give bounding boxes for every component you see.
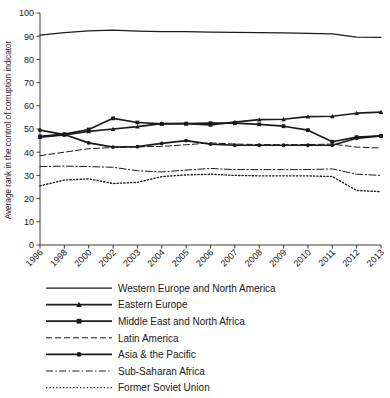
data-point-marker — [330, 140, 334, 144]
data-point-marker — [77, 352, 82, 357]
y-axis-tick-label: 100 — [19, 8, 34, 18]
data-point-marker — [257, 122, 261, 126]
y-axis-tick-label: 80 — [24, 55, 34, 65]
data-point-marker — [306, 128, 310, 132]
data-point-marker — [38, 135, 42, 139]
data-point-marker — [379, 134, 383, 138]
data-point-marker — [38, 128, 42, 132]
line-chart: Average rank in the control of corruptio… — [0, 0, 390, 398]
legend-item-label: Western Europe and North America — [118, 283, 276, 294]
legend-item-label: Eastern Europe — [118, 299, 188, 310]
y-axis-title: Average rank in the control of corruptio… — [4, 40, 13, 219]
y-axis-tick-label: 0 — [29, 240, 34, 250]
chart-container: Average rank in the control of corruptio… — [0, 0, 390, 398]
data-point-marker — [87, 141, 91, 145]
data-point-marker — [136, 121, 140, 125]
data-point-marker — [136, 145, 140, 149]
legend-item-label: Latin America — [118, 333, 179, 344]
data-point-marker — [184, 139, 188, 143]
y-axis-tick-label: 70 — [24, 78, 34, 88]
data-point-marker — [233, 121, 237, 125]
y-axis-tick-label: 20 — [24, 194, 34, 204]
data-point-marker — [111, 145, 115, 149]
data-point-marker — [62, 133, 66, 137]
data-point-marker — [355, 136, 359, 140]
data-point-marker — [282, 143, 286, 147]
data-point-marker — [282, 124, 286, 128]
data-point-marker — [209, 142, 213, 146]
data-point-marker — [209, 121, 213, 125]
y-axis-title-text: Average rank in the control of corruptio… — [4, 40, 13, 219]
y-axis-tick-label: 50 — [24, 124, 34, 134]
y-axis-tick-label: 40 — [24, 148, 34, 158]
legend-item-label: Former Soviet Union — [118, 382, 210, 393]
data-point-marker — [87, 128, 91, 132]
data-point-marker — [111, 116, 115, 120]
data-point-marker — [160, 141, 164, 145]
legend-item-label: Asia & the Pacific — [118, 349, 196, 360]
y-axis-tick-label: 30 — [24, 171, 34, 181]
data-point-marker — [77, 319, 82, 324]
data-point-marker — [184, 122, 188, 126]
legend-item-label: Sub-Saharan Africa — [118, 366, 205, 377]
y-axis-tick-label: 90 — [24, 32, 34, 42]
data-point-marker — [233, 143, 237, 147]
data-point-marker — [330, 143, 334, 147]
data-point-marker — [160, 122, 164, 126]
legend-item-label: Middle East and North Africa — [118, 316, 245, 327]
y-axis-tick-label: 60 — [24, 101, 34, 111]
data-point-marker — [257, 143, 261, 147]
data-point-marker — [306, 143, 310, 147]
y-axis-tick-label: 10 — [24, 217, 34, 227]
